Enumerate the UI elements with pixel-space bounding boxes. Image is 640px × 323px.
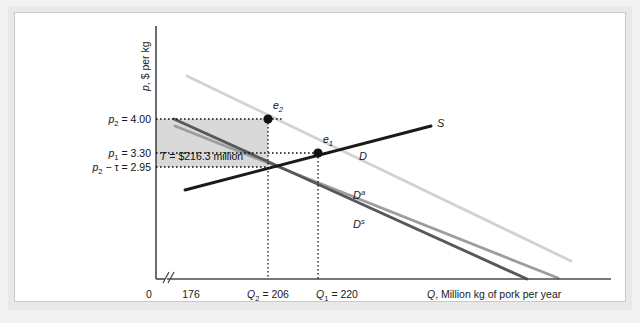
x-tick-label-176: 176 xyxy=(182,288,200,300)
x-axis-title: Q, Million kg of pork per year xyxy=(427,288,562,300)
curve-label-Ds: Ds xyxy=(353,217,365,230)
axis-break-mark-2 xyxy=(168,272,174,283)
x-tick-label-Q1: Q1 = 220 xyxy=(316,288,358,303)
y-axis-title: p, $ per kg xyxy=(139,41,151,92)
supply-demand-chart: e2 e1 S D Da Ds T = $216.3 million p2 = … xyxy=(15,13,627,303)
y-tick-label-p2-minus-tau: p2 − τ = 2.95 xyxy=(91,161,151,176)
demand-curve-Ds xyxy=(174,119,527,279)
equilibrium-label-e1: e1 xyxy=(323,133,333,148)
y-tick-label-p1: p1 = 3.30 xyxy=(108,147,152,162)
figure-page: e2 e1 S D Da Ds T = $216.3 million p2 = … xyxy=(0,0,640,323)
curve-label-D: D xyxy=(359,150,367,162)
demand-curve-D xyxy=(187,76,571,261)
demand-curve-Da xyxy=(175,126,558,278)
equilibrium-point-e2 xyxy=(263,114,272,123)
curve-label-Da: Da xyxy=(353,188,365,201)
y-tick-label-p2: p2 = 4.00 xyxy=(108,113,152,128)
axis-break-mark-1 xyxy=(163,272,169,283)
equilibrium-point-e1 xyxy=(313,148,322,157)
figure-card: e2 e1 S D Da Ds T = $216.3 million p2 = … xyxy=(14,12,626,302)
x-tick-label-Q2: Q2 = 206 xyxy=(247,288,289,303)
x-tick-label-zero: 0 xyxy=(146,288,152,300)
curve-label-S: S xyxy=(437,117,445,129)
equilibrium-label-e2: e2 xyxy=(273,99,284,114)
tax-revenue-annotation: T = $216.3 million xyxy=(160,150,243,162)
